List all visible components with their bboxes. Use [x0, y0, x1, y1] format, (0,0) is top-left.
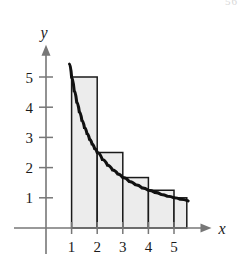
x-tick-label: 3 — [119, 239, 127, 255]
y-tick-label: 5 — [26, 70, 34, 86]
x-axis-label: x — [217, 220, 225, 237]
y-axis-label: y — [38, 24, 48, 42]
y-tick-label: 4 — [26, 100, 34, 116]
y-tick-label: 1 — [26, 190, 34, 206]
riemann-rectangle — [174, 198, 187, 228]
riemann-rectangles — [72, 77, 187, 228]
y-tick-label: 2 — [26, 160, 34, 176]
riemann-rectangle — [97, 153, 123, 229]
x-tick-label: 5 — [170, 239, 178, 255]
y-tick-label: 3 — [26, 130, 34, 146]
x-tick-label: 2 — [93, 239, 101, 255]
riemann-sum-figure: 56 12345 12345 y x — [0, 0, 250, 270]
x-tick-label: 1 — [68, 239, 76, 255]
y-axis-ticks: 12345 — [26, 70, 54, 207]
x-axis-arrow-icon — [200, 224, 211, 233]
chart-canvas: 12345 12345 y x — [0, 0, 250, 270]
x-tick-label: 4 — [145, 239, 153, 255]
y-axis-arrow-icon — [42, 45, 51, 56]
